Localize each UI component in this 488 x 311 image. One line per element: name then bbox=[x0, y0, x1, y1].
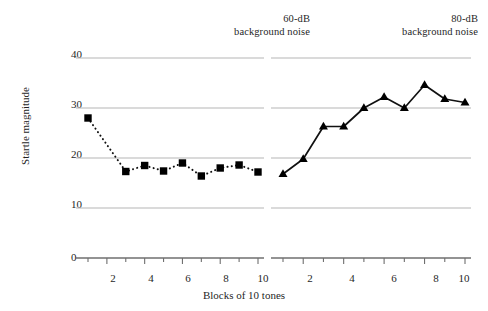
data-point-square-block-3 bbox=[122, 168, 129, 175]
gridlines bbox=[76, 58, 471, 208]
series-line-80db bbox=[283, 85, 465, 174]
series-60db bbox=[84, 114, 261, 179]
series-80db bbox=[279, 80, 470, 177]
data-point-triangle-block-9 bbox=[440, 94, 449, 102]
data-point-square-block-4 bbox=[141, 162, 148, 169]
data-point-triangle-block-3 bbox=[319, 122, 328, 130]
data-point-square-block-9 bbox=[235, 161, 242, 168]
data-point-triangle-block-8 bbox=[420, 80, 429, 88]
data-point-triangle-block-1 bbox=[279, 169, 288, 177]
data-point-square-block-6 bbox=[179, 159, 186, 166]
series-line-60db bbox=[88, 118, 258, 176]
data-point-square-block-5 bbox=[160, 167, 167, 174]
data-point-square-block-7 bbox=[198, 172, 205, 179]
data-point-triangle-block-6 bbox=[380, 92, 389, 100]
data-point-square-block-1 bbox=[84, 114, 91, 121]
axis-ticks bbox=[88, 258, 465, 264]
chart-figure: 60-dB background noise 80-dB background … bbox=[0, 0, 488, 311]
data-point-square-block-10 bbox=[254, 168, 261, 175]
data-point-square-block-8 bbox=[217, 164, 224, 171]
plot-area bbox=[0, 0, 488, 311]
